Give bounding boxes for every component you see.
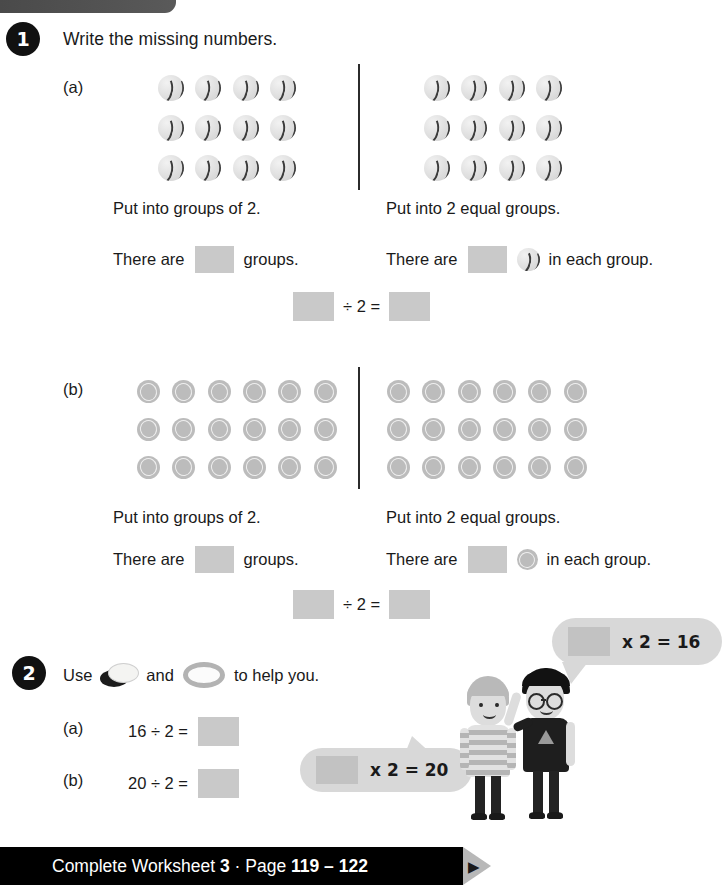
coin-icon	[528, 456, 551, 479]
item-label-2b: (b)	[63, 771, 83, 790]
coin-icon	[172, 380, 195, 403]
answer-box-bubble-top[interactable]	[568, 627, 610, 656]
prompt-start: Use	[63, 666, 92, 685]
answer-box-1b-right-each[interactable]	[468, 546, 507, 573]
instruction-1b-left: Put into groups of 2.	[113, 508, 261, 527]
footer-pages: 119 – 122	[291, 856, 368, 876]
answer-box-1a-right-each[interactable]	[468, 246, 507, 273]
baseball-icon	[195, 155, 221, 181]
part-label-1a: (a)	[63, 78, 83, 97]
object-grid-1b-left	[131, 373, 343, 486]
answer-box-1a-eq-left[interactable]	[293, 292, 334, 321]
baseball-icon	[424, 115, 450, 141]
leg-right	[549, 771, 559, 815]
coin-icon	[528, 418, 551, 441]
answer-box-2a[interactable]	[198, 717, 239, 746]
speech-bubble-bottom-text: x 2 = 20	[370, 760, 448, 780]
prompt-middle: and	[146, 666, 174, 685]
coin-icon	[493, 418, 516, 441]
baseball-icon	[424, 75, 450, 101]
torso-striped	[466, 725, 510, 777]
baseball-icon	[158, 115, 184, 141]
coin-icon	[528, 380, 551, 403]
fringe	[467, 682, 509, 696]
coin-icon	[172, 418, 195, 441]
coin-icon	[387, 380, 410, 403]
sentence-1a-left: There are groups.	[113, 246, 299, 273]
object-grid-1a-right	[418, 68, 568, 188]
coin-icon	[314, 380, 337, 403]
leg-left	[533, 771, 543, 815]
baseball-icon	[536, 75, 562, 101]
coin-icon	[208, 380, 231, 403]
sentence-suffix: groups.	[244, 550, 299, 569]
coin-icon	[278, 380, 301, 403]
coin-icon	[314, 418, 337, 441]
footer-banner: Complete Worksheet 3 · Page 119 – 122	[0, 847, 463, 885]
glasses-bridge	[541, 699, 546, 701]
part-label-1b: (b)	[63, 380, 83, 399]
answer-box-1a-eq-right[interactable]	[389, 292, 430, 321]
answer-box-1a-left-groups[interactable]	[195, 246, 234, 273]
coin-icon	[564, 456, 587, 479]
coin-icon	[564, 418, 587, 441]
coin-icon	[458, 380, 481, 403]
arm-right	[566, 722, 575, 766]
coin-icon	[422, 418, 445, 441]
coin-icon	[243, 418, 266, 441]
speech-bubble-top: x 2 = 16	[552, 618, 722, 665]
baseball-icon	[424, 155, 450, 181]
baseball-icon	[195, 115, 221, 141]
ring-counter-icon	[183, 662, 225, 688]
coin-icon	[458, 418, 481, 441]
leg-left	[475, 776, 485, 816]
sentence-1b-right: There are in each group.	[386, 546, 651, 573]
answer-box-2b[interactable]	[198, 769, 239, 798]
divider-1a	[358, 64, 360, 190]
sentence-prefix: There are	[113, 550, 185, 569]
shoe-right	[489, 813, 505, 820]
speech-bubble-bottom-tail	[404, 736, 434, 756]
footer-worksheet-number: 3	[220, 856, 230, 876]
question-1-prompt: Write the missing numbers.	[63, 29, 277, 50]
answer-box-1b-left-groups[interactable]	[195, 546, 234, 573]
two-colour-counter-icon	[100, 662, 138, 688]
coin-icon	[208, 456, 231, 479]
coin-icon	[208, 418, 231, 441]
shoe-left	[471, 813, 487, 820]
expression-2b: 20 ÷ 2 =	[128, 769, 239, 798]
coin-icon	[278, 456, 301, 479]
eye-left	[479, 703, 483, 707]
coin-icon	[137, 380, 160, 403]
expression-text: 16 ÷ 2 =	[128, 722, 188, 741]
baseball-icon	[499, 115, 525, 141]
coin-icon	[564, 380, 587, 403]
baseball-icon	[499, 155, 525, 181]
answer-box-1b-eq-left[interactable]	[293, 590, 334, 619]
baseball-icon	[461, 155, 487, 181]
sentence-suffix: in each group.	[549, 250, 654, 269]
sentence-prefix: There are	[386, 550, 458, 569]
coin-icon	[314, 456, 337, 479]
coin-icon	[137, 418, 160, 441]
instruction-1a-right: Put into 2 equal groups.	[386, 199, 560, 218]
sentence-prefix: There are	[113, 250, 185, 269]
sentence-suffix: in each group.	[547, 550, 652, 569]
baseball-icon	[461, 75, 487, 101]
item-label-2a: (a)	[63, 719, 83, 738]
coin-icon	[243, 456, 266, 479]
decorative-top-bar	[0, 0, 176, 13]
character-with-glasses	[512, 668, 592, 823]
object-grid-1a-left	[152, 68, 302, 188]
sentence-prefix: There are	[386, 250, 458, 269]
question-number-badge-1: 1	[6, 22, 40, 56]
answer-box-bubble-bottom[interactable]	[316, 756, 358, 784]
shoe-left	[529, 812, 545, 819]
footer-text: Complete Worksheet 3 · Page 119 – 122	[0, 856, 368, 877]
speech-bubble-top-text: x 2 = 16	[622, 632, 700, 652]
instruction-1a-left: Put into groups of 2.	[113, 199, 261, 218]
answer-box-1b-eq-right[interactable]	[389, 590, 430, 619]
white-disc	[108, 663, 139, 683]
coin-icon	[493, 380, 516, 403]
leg-right	[491, 776, 501, 816]
